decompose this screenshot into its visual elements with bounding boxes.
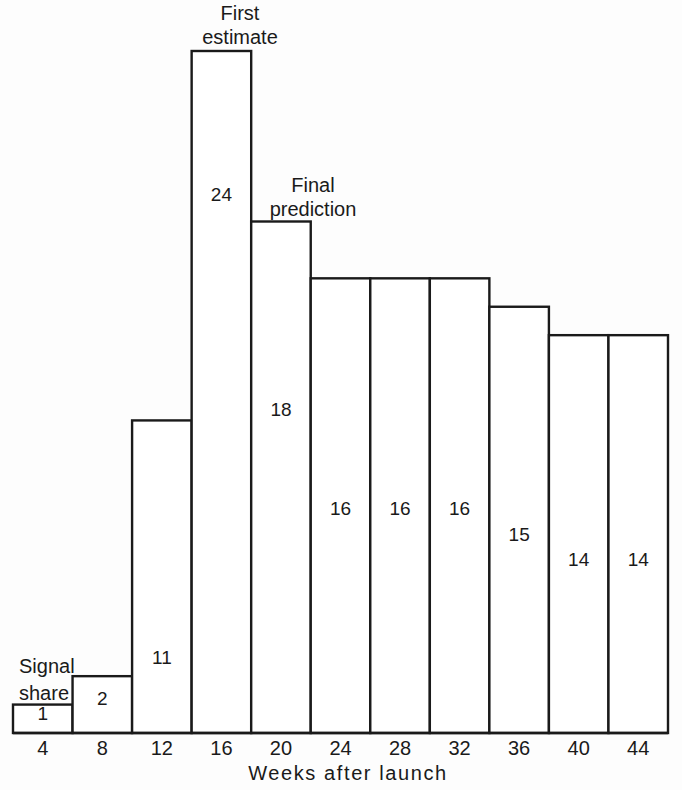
bar-value-label: 16 bbox=[449, 498, 470, 519]
x-tick-label: 36 bbox=[508, 737, 530, 759]
x-tick-label: 4 bbox=[37, 737, 48, 759]
bar-value-label: 1 bbox=[37, 703, 48, 724]
bar-value-label: 14 bbox=[568, 549, 590, 570]
bar bbox=[192, 51, 252, 733]
x-axis-title: Weeks after launch bbox=[248, 762, 448, 784]
bar-value-label: 16 bbox=[330, 498, 351, 519]
x-tick-label: 8 bbox=[97, 737, 108, 759]
x-tick-label: 20 bbox=[270, 737, 292, 759]
bar bbox=[132, 420, 192, 733]
bar-value-label: 15 bbox=[509, 524, 530, 545]
annotation-signal-share: Signal share bbox=[19, 655, 75, 704]
x-tick-label: 12 bbox=[151, 737, 173, 759]
x-tick-label: 44 bbox=[627, 737, 649, 759]
bar-value-label: 18 bbox=[270, 399, 291, 420]
final-prediction-line-1: Final bbox=[291, 174, 334, 196]
x-axis-tick-labels: 48121620242832364044 bbox=[37, 737, 649, 759]
signal-share-line-1: Signal bbox=[19, 655, 75, 677]
chart-canvas: 12112418161616151414 4812162024283236404… bbox=[0, 0, 682, 790]
bars-group bbox=[13, 51, 668, 733]
x-tick-label: 28 bbox=[389, 737, 411, 759]
x-tick-label: 32 bbox=[448, 737, 470, 759]
bar bbox=[251, 222, 311, 734]
bar-value-label: 14 bbox=[628, 549, 650, 570]
annotation-first-estimate: First estimate bbox=[202, 2, 278, 48]
final-prediction-line-2: prediction bbox=[270, 198, 357, 220]
bar-value-label: 2 bbox=[97, 688, 108, 709]
first-estimate-line-2: estimate bbox=[202, 26, 278, 48]
signal-share-line-2: share bbox=[19, 682, 69, 704]
bar bbox=[549, 335, 609, 733]
bar-value-label: 16 bbox=[389, 498, 410, 519]
first-estimate-line-1: First bbox=[221, 2, 260, 24]
annotation-final-prediction: Final prediction bbox=[270, 174, 357, 220]
x-tick-label: 16 bbox=[210, 737, 232, 759]
bar-chart: 12112418161616151414 4812162024283236404… bbox=[0, 0, 682, 790]
x-tick-label: 24 bbox=[329, 737, 351, 759]
x-tick-label: 40 bbox=[568, 737, 590, 759]
bar-value-label: 11 bbox=[152, 647, 172, 668]
bar bbox=[489, 307, 549, 733]
bar-value-label: 24 bbox=[211, 184, 233, 205]
bar bbox=[608, 335, 668, 733]
